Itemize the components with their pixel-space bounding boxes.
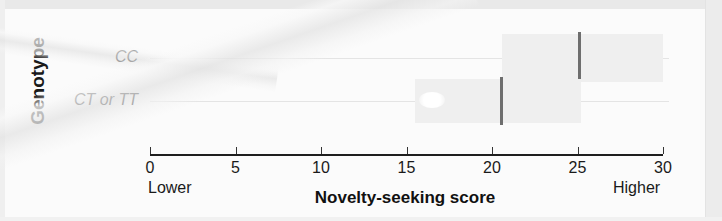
plot-area: Genotype CC CT or TT 051015202530 Novelt… — [0, 0, 722, 221]
category-label-ct-or-tt: CT or TT — [74, 91, 138, 108]
x-axis-tick-0 — [150, 147, 151, 154]
x-axis-tick-15 — [407, 147, 408, 154]
x-axis-tick-label-5: 5 — [231, 159, 240, 177]
category-label-ct-or-tt-wrap: CT or TT — [0, 91, 144, 109]
x-axis-tick-label-20: 20 — [483, 159, 501, 177]
x-axis-tick-label-25: 25 — [569, 159, 587, 177]
x-axis-tick-25 — [578, 147, 579, 154]
x-axis-tick-label-0: 0 — [146, 159, 155, 177]
confidence-interval-band-cc — [502, 34, 663, 82]
estimate-marker-ct-or-tt — [500, 77, 503, 125]
x-axis-tick-5 — [236, 147, 237, 154]
category-label-cc-wrap: CC — [0, 48, 144, 66]
confidence-interval-band-ct-or-tt — [415, 79, 581, 123]
x-axis-tick-label-10: 10 — [312, 159, 330, 177]
x-axis-tick-30 — [663, 147, 664, 154]
row-guide-line-ct-or-tt — [150, 101, 669, 102]
x-axis-tick-10 — [321, 147, 322, 154]
x-axis-tick-label-15: 15 — [398, 159, 416, 177]
y-axis-title: Genotype — [27, 21, 49, 141]
x-axis-title: Novelty-seeking score — [315, 188, 495, 208]
category-label-cc: CC — [115, 48, 138, 65]
x-axis-tick-label-30: 30 — [654, 159, 672, 177]
x-axis-anchor-lower: Lower — [148, 179, 192, 197]
estimate-marker-cc — [578, 32, 581, 84]
x-axis-anchor-higher: Higher — [613, 179, 660, 197]
x-axis-tick-20 — [492, 147, 493, 154]
x-axis-line — [150, 154, 663, 156]
figure-container: Genotype CC CT or TT 051015202530 Novelt… — [0, 0, 722, 221]
